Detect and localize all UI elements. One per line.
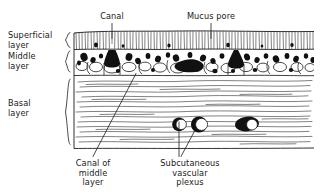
superficial-villi-hatching — [76, 31, 313, 49]
middle-layer-brace — [66, 51, 71, 72]
vessel-right — [234, 115, 259, 132]
vessel-middle — [191, 117, 208, 133]
basal-layer-region — [76, 81, 312, 145]
canal-of-middle-layer-leader — [93, 74, 136, 157]
label-middle-layer: Middle layer — [8, 52, 36, 71]
subcutaneous-vessels — [172, 115, 260, 132]
superficial-dark-specks — [94, 43, 294, 48]
basal-fiber-strands — [76, 81, 312, 145]
anatomy-figure: Superficial layer Middle layer Basal lay… — [0, 0, 323, 195]
label-mucus-pore: Mucus pore — [176, 12, 246, 22]
basal-layer-brace — [66, 79, 71, 145]
superficial-layer-region — [74, 31, 314, 49]
label-canal: Canal — [87, 12, 137, 22]
tissue-block-outline — [74, 31, 314, 149]
layer-braces — [66, 33, 71, 145]
label-superficial-layer: Superficial layer — [8, 31, 52, 50]
label-subcutaneous-vascular-plexus: Subcutaneous vascular plexus — [145, 159, 235, 188]
label-canal-of-middle-layer: Canal of middle layer — [57, 159, 129, 188]
label-basal-layer: Basal layer — [8, 99, 31, 118]
middle-layer-region — [74, 43, 316, 76]
superficial-layer-brace — [66, 33, 71, 48]
